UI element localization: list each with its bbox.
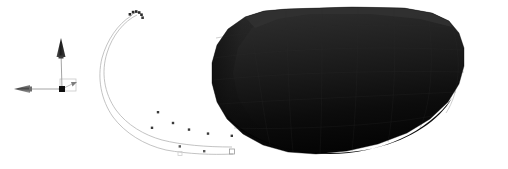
curve-point-marker <box>157 111 159 113</box>
horizontal-arrow-base <box>29 87 32 92</box>
curve-point-marker <box>138 11 141 14</box>
curve-point-marker <box>141 16 144 19</box>
scene-canvas[interactable] <box>0 0 508 169</box>
curve-point-marker <box>203 150 205 152</box>
curve-point-marker <box>231 135 233 137</box>
curve-point-marker <box>207 132 209 134</box>
3d-render-viewport[interactable]: large dark shaded 3d body flat-shaded-so… <box>0 0 508 169</box>
curve-point-marker <box>132 11 135 14</box>
curve-point-marker <box>172 122 174 124</box>
curve-point-marker <box>179 145 181 147</box>
curve-point-marker <box>151 127 153 129</box>
curve-point-marker <box>129 13 132 16</box>
origin-point-dot <box>59 86 65 92</box>
curve-point-marker <box>188 128 190 130</box>
vertical-arrow-base <box>59 56 64 59</box>
curve-point-marker <box>140 13 143 16</box>
curve-point-marker <box>135 10 138 13</box>
